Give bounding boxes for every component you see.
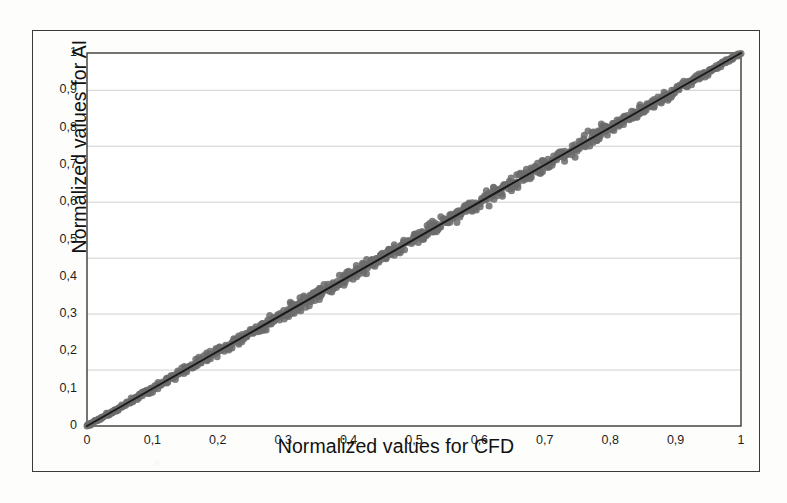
y-axis-title: Normalized values for AI (68, 37, 91, 257)
plot-svg-canvas (33, 31, 761, 473)
scatter-point (572, 154, 579, 161)
chart-outer-frame: 00,10,20,30,40,50,60,70,80,91 00,10,20,3… (32, 30, 760, 472)
y-axis-tick-label: 0,3 (33, 306, 77, 320)
scatter-point (561, 158, 568, 165)
y-axis-tick-label: 0,2 (33, 343, 77, 357)
y-axis-tick-label: 0,4 (33, 269, 77, 283)
y-axis-tick-label: 0,1 (33, 381, 77, 395)
y-axis-tick-label: 0 (33, 418, 77, 432)
scatter-point (486, 202, 493, 209)
scatter-plot-figure: 00,10,20,30,40,50,60,70,80,91 00,10,20,3… (33, 31, 759, 471)
x-axis-title: Normalized values for CFD (33, 435, 759, 458)
